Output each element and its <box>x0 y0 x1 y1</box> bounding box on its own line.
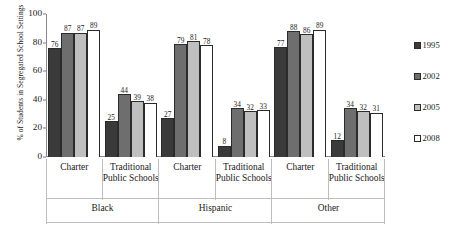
bar[interactable]: 32 <box>244 111 257 157</box>
bar-value-label: 86 <box>303 27 310 34</box>
bar-value-label: 89 <box>316 22 323 29</box>
bar-value-label: 39 <box>134 94 141 101</box>
bar-slot: 88 <box>287 14 300 157</box>
bar-value-label: 34 <box>347 101 354 108</box>
legend-label: 2008 <box>423 134 440 143</box>
x-axis-group-label: Black <box>92 203 114 214</box>
bar[interactable]: 31 <box>370 113 383 157</box>
bar-value-label: 33 <box>260 103 267 110</box>
bar[interactable]: 25 <box>105 121 118 157</box>
bar[interactable]: 79 <box>174 44 187 157</box>
bar-slot: 34 <box>231 14 244 157</box>
legend-label: 1995 <box>423 41 440 50</box>
bar-value-label: 87 <box>77 25 84 32</box>
x-axis-tier2-rule <box>46 222 385 223</box>
legend-swatch-icon <box>414 104 421 111</box>
label-separator <box>384 159 385 200</box>
x-axis-label-cell: Charter <box>46 159 103 199</box>
bar[interactable]: 39 <box>131 101 144 157</box>
bar-slot: 77 <box>274 14 287 157</box>
bar[interactable]: 77 <box>274 47 287 157</box>
y-tick-label: 80 <box>33 38 42 47</box>
bar-value-label: 32 <box>360 104 367 111</box>
bar-slot: 34 <box>344 14 357 157</box>
bar-value-label: 12 <box>334 133 341 140</box>
x-axis-label: Traditional Public Schools <box>329 162 386 184</box>
legend-swatch-icon <box>414 73 421 80</box>
grouped-bar-chart: % of Students in Segregated School Setti… <box>0 0 463 238</box>
bar[interactable]: 87 <box>61 33 74 157</box>
bar[interactable]: 89 <box>313 30 326 157</box>
bar[interactable]: 27 <box>161 118 174 157</box>
bar-slot: 32 <box>357 14 370 157</box>
bar[interactable]: 87 <box>74 33 87 157</box>
bar-group: 8343233 <box>216 14 273 157</box>
bar-value-label: 88 <box>290 24 297 31</box>
bar-value-label: 25 <box>108 114 115 121</box>
bar-cluster: 12343231 <box>331 14 383 157</box>
legend-swatch-icon <box>414 42 421 49</box>
bar-slot: 81 <box>187 14 200 157</box>
bar[interactable]: 78 <box>200 45 213 157</box>
bar-value-label: 8 <box>222 138 226 145</box>
bar-slot: 87 <box>74 14 87 157</box>
y-tick-label: 20 <box>33 124 42 133</box>
bar[interactable]: 32 <box>357 111 370 157</box>
bar-value-label: 76 <box>51 41 58 48</box>
bar-slot: 89 <box>313 14 326 157</box>
bar-cluster: 25443938 <box>105 14 157 157</box>
legend-label: 2002 <box>423 72 440 81</box>
bar[interactable]: 34 <box>344 108 357 157</box>
bar-value-label: 77 <box>277 40 284 47</box>
bar-slot: 12 <box>331 14 344 157</box>
bar-value-label: 32 <box>247 104 254 111</box>
y-axis-title: % of Students in Segregated School Setti… <box>16 0 25 163</box>
bar-value-label: 44 <box>121 87 128 94</box>
x-axis-tier1-labels: CharterTraditional Public SchoolsCharter… <box>46 159 385 199</box>
x-axis-label: Charter <box>60 162 88 173</box>
bar-slot: 79 <box>174 14 187 157</box>
bar-slot: 86 <box>300 14 313 157</box>
bar-slot: 31 <box>370 14 383 157</box>
bar[interactable]: 38 <box>144 103 157 157</box>
bar-group: 77888689 <box>272 14 329 157</box>
legend-item[interactable]: 1995 <box>414 30 463 61</box>
bar[interactable]: 34 <box>231 108 244 157</box>
bar-value-label: 38 <box>147 95 154 102</box>
bar-value-label: 27 <box>164 111 171 118</box>
x-axis-label-cell: Charter <box>159 159 216 199</box>
y-tick-label: 0 <box>37 152 42 161</box>
bar-value-label: 79 <box>177 37 184 44</box>
bar[interactable]: 8 <box>218 146 231 157</box>
x-axis-group-cell: Black <box>46 199 159 223</box>
bar-value-label: 78 <box>203 38 210 45</box>
bar[interactable]: 88 <box>287 31 300 157</box>
legend-item[interactable]: 2005 <box>414 92 463 123</box>
legend-item[interactable]: 2008 <box>414 123 463 154</box>
x-axis-tier2-labels: BlackHispanicOther <box>46 199 385 223</box>
bar-slot: 38 <box>144 14 157 157</box>
bar[interactable]: 44 <box>118 94 131 157</box>
bar[interactable]: 12 <box>331 140 344 157</box>
x-axis-label-cell: Charter <box>272 159 329 199</box>
bar-cluster: 76878789 <box>48 14 100 157</box>
y-tick-label: 40 <box>33 95 42 104</box>
bar-value-label: 34 <box>234 101 241 108</box>
bar-slot: 25 <box>105 14 118 157</box>
x-axis-label: Charter <box>173 162 201 173</box>
bar[interactable]: 89 <box>87 30 100 157</box>
bar-groups: 7687878925443938277981788343233778886891… <box>46 14 385 157</box>
legend-item[interactable]: 2002 <box>414 61 463 92</box>
bar-value-label: 81 <box>190 34 197 41</box>
bar[interactable]: 76 <box>48 48 61 157</box>
bar[interactable]: 81 <box>187 41 200 157</box>
label-separator <box>46 159 47 200</box>
bar-slot: 39 <box>131 14 144 157</box>
x-axis-label-cell: Traditional Public Schools <box>103 159 160 199</box>
label-separator <box>46 199 47 224</box>
bar[interactable]: 86 <box>300 34 313 157</box>
bar-value-label: 89 <box>90 22 97 29</box>
x-axis-label: Traditional Public Schools <box>103 162 160 184</box>
bar[interactable]: 33 <box>257 110 270 157</box>
bar-slot: 8 <box>218 14 231 157</box>
